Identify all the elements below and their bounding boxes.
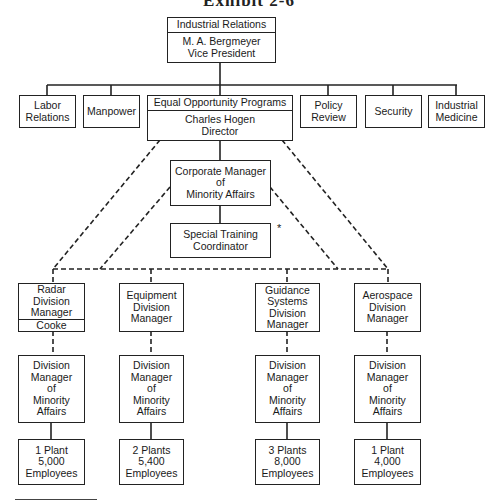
footnote-asterisk: * (277, 222, 281, 234)
box-label-line: Coordinator (171, 241, 270, 253)
security-box: Security (365, 95, 422, 128)
dept-label-line: Medicine (429, 112, 484, 124)
corporate-manager-minority-affairs-box: Corporate Manager of Minority Affairs (170, 160, 271, 206)
dept-label-line: Security (366, 106, 421, 118)
box-label-line: Manager (355, 313, 420, 325)
box-label-line: Affairs (19, 406, 84, 418)
equipment-division-minority-manager-box: Division Manager of Minority Affairs (119, 355, 184, 423)
guidance-division-minority-manager-box: Division Manager of Minority Affairs (255, 355, 320, 423)
footnote-rule (15, 499, 97, 500)
box-label-line: Special Training (171, 229, 270, 241)
box-label-line: Radar (37, 284, 66, 296)
box-label-line: Affairs (256, 406, 319, 418)
radar-division-manager-box: Radar Division Manager Cooke (18, 283, 85, 332)
industrial-medicine-box: Industrial Medicine (428, 95, 485, 128)
employees-label: Employees (120, 468, 183, 480)
vp-name: M. A. Bergmeyer (182, 36, 260, 48)
radar-plants-box: 1 Plant 5,000 Employees (18, 439, 85, 485)
dept-label-line: Review (301, 112, 356, 124)
equipment-division-manager-box: Equipment Division Manager (119, 283, 184, 332)
employees-label: Employees (355, 468, 420, 480)
box-label-line: Minority Affairs (171, 189, 270, 201)
radar-manager-name: Cooke (36, 320, 66, 332)
box-label-line: Affairs (355, 406, 420, 418)
radar-division-minority-manager-box: Division Manager of Minority Affairs (18, 355, 85, 423)
equipment-plants-box: 2 Plants 5,400 Employees (119, 439, 184, 485)
dept-label-line: Relations (20, 112, 75, 124)
labor-relations-box: Labor Relations (19, 95, 76, 128)
box-label-line: Systems (256, 296, 319, 308)
aerospace-division-minority-manager-box: Division Manager of Minority Affairs (354, 355, 421, 423)
vp-industrial-relations-box: Industrial Relations M. A. Bergmeyer Vic… (167, 17, 276, 63)
dept-label-line: Industrial (429, 100, 484, 112)
box-label-line: Manager (120, 313, 183, 325)
manpower-box: Manpower (83, 95, 140, 128)
eop-director-name: Charles Hogen (185, 114, 255, 126)
employees-label: Employees (19, 468, 84, 480)
employees-label: Employees (256, 468, 319, 480)
vp-unit-label: Industrial Relations (177, 19, 266, 31)
dept-label-line: Manpower (84, 106, 139, 118)
eop-unit-label: Equal Opportunity Programs (154, 97, 286, 109)
aerospace-division-manager-box: Aerospace Division Manager (354, 283, 421, 332)
box-label-line: Manager (31, 307, 72, 319)
vp-title: Vice President (188, 48, 256, 60)
aerospace-plants-box: 1 Plant 4,000 Employees (354, 439, 421, 485)
box-label-line: Manager (256, 319, 319, 331)
equal-opportunity-programs-box: Equal Opportunity Programs Charles Hogen… (147, 95, 293, 141)
guidance-systems-division-manager-box: Guidance Systems Division Manager (255, 283, 320, 332)
policy-review-box: Policy Review (300, 95, 357, 128)
dept-label-line: Labor (20, 100, 75, 112)
dept-label-line: Policy (301, 100, 356, 112)
special-training-coordinator-box: Special Training Coordinator (170, 223, 271, 258)
eop-director-title: Director (202, 126, 239, 138)
box-label-line: Affairs (120, 406, 183, 418)
guidance-plants-box: 3 Plants 8,000 Employees (255, 439, 320, 485)
